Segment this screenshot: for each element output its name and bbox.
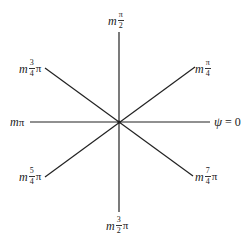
label-3pi-over-4: m 3 4 π <box>19 59 41 78</box>
label-pi-over-2: m π 2 <box>108 11 125 30</box>
center-point <box>117 120 120 123</box>
fraction: 7 4 <box>205 167 211 186</box>
label-3pi-over-2: m 3 2 π <box>106 216 128 235</box>
label-prefix: m <box>19 171 28 183</box>
fraction: π 2 <box>118 11 124 30</box>
fraction-denominator: 2 <box>117 226 121 235</box>
ray-lines <box>0 0 249 241</box>
label-prefix: m <box>195 171 204 183</box>
fraction-denominator: 4 <box>30 177 34 186</box>
fraction-numerator: 5 <box>29 167 35 177</box>
label-suffix: = 0 <box>225 116 241 128</box>
label-7pi-over-4: m 7 4 π <box>195 167 217 186</box>
label-prefix: m <box>195 63 204 75</box>
fraction-numerator: π <box>118 11 124 21</box>
label-suffix: π <box>36 171 42 182</box>
label-suffix: π <box>36 63 42 74</box>
label-prefix: m <box>106 220 115 232</box>
label-prefix: m <box>10 116 19 128</box>
label-prefix: ψ <box>214 115 222 128</box>
fraction-denominator: 4 <box>206 69 210 78</box>
label-prefix: m <box>19 63 28 75</box>
fraction-numerator: 3 <box>29 59 35 69</box>
fraction-numerator: π <box>205 59 211 69</box>
label-suffix: π <box>19 117 25 128</box>
fraction: 3 4 <box>29 59 35 78</box>
label-psi-zero: ψ = 0 <box>214 115 241 128</box>
fraction-numerator: 3 <box>116 216 122 226</box>
fraction: 3 2 <box>116 216 122 235</box>
fraction-denominator: 4 <box>206 177 210 186</box>
label-prefix: m <box>108 15 117 27</box>
fraction-denominator: 4 <box>30 69 34 78</box>
fraction-denominator: 2 <box>119 21 123 30</box>
label-5pi-over-4: m 5 4 π <box>19 167 41 186</box>
fraction: π 4 <box>205 59 211 78</box>
label-suffix: π <box>123 220 129 231</box>
label-pi: m π <box>10 116 24 128</box>
fraction: 5 4 <box>29 167 35 186</box>
label-suffix: π <box>212 171 218 182</box>
label-pi-over-4: m π 4 <box>195 59 212 78</box>
fraction-numerator: 7 <box>205 167 211 177</box>
